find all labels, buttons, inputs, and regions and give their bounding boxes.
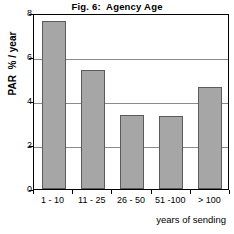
y-tick-label: 2 [8, 141, 32, 150]
bar-series [34, 15, 228, 189]
bar [198, 87, 222, 189]
x-axis-title: years of sending [0, 214, 226, 225]
x-tick-mark [229, 190, 230, 194]
x-tick-mark [151, 190, 152, 194]
bar [159, 116, 183, 189]
figure-container: Fig. 6: Agency Age PAR % / year 02468 1 … [0, 0, 234, 234]
x-tick-mark [111, 190, 112, 194]
x-tick-label: 11 - 25 [72, 195, 111, 205]
bar [42, 21, 66, 189]
y-tick-label: 8 [8, 9, 32, 18]
x-tick-mark [72, 190, 73, 194]
y-tick-label: 6 [8, 53, 32, 62]
x-tick-mark [190, 190, 191, 194]
x-tick-label: 26 - 50 [111, 195, 150, 205]
x-tick-mark [33, 190, 34, 194]
x-tick-label: 51 -100 [151, 195, 190, 205]
y-tick-label: 0 [8, 185, 32, 194]
bar [120, 115, 144, 189]
bar [81, 70, 105, 189]
x-tick-label: > 100 [190, 195, 229, 205]
chart-title: Fig. 6: Agency Age [0, 1, 234, 12]
y-tick-label: 4 [8, 97, 32, 106]
plot-area [33, 14, 229, 190]
x-tick-label: 1 - 10 [33, 195, 72, 205]
